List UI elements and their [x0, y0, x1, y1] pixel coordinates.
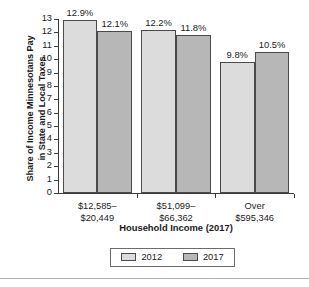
y-tick [54, 99, 58, 100]
y-tick-label: 2 [47, 162, 52, 171]
legend-item-2017: 2017 [183, 253, 224, 262]
bar-value-label: 12.2% [145, 18, 172, 27]
y-tick [54, 113, 58, 114]
y-tick-label: 0 [47, 188, 52, 197]
y-tick [54, 19, 58, 20]
y-tick [54, 166, 58, 167]
y-tick [54, 139, 58, 140]
x-tick [294, 194, 295, 198]
bar [220, 62, 255, 193]
bar-value-label: 12.9% [67, 8, 94, 17]
legend-swatch-2017 [183, 253, 198, 261]
y-tick-label: 1 [47, 175, 52, 184]
y-tick-label: 10 [42, 54, 52, 63]
y-tick [54, 180, 58, 181]
y-tick-label: 4 [47, 135, 52, 144]
legend-label-2017: 2017 [203, 253, 224, 262]
legend-swatch-2012 [121, 253, 136, 261]
chart-legend: 2012 2017 [110, 248, 235, 267]
y-tick-label: 7 [47, 95, 52, 104]
bottom-divider [0, 278, 309, 279]
y-tick-label: 13 [42, 14, 52, 23]
legend-item-2012: 2012 [121, 253, 162, 262]
y-tick [54, 32, 58, 33]
y-tick [54, 153, 58, 154]
y-tick-label: 8 [47, 81, 52, 90]
y-tick [54, 86, 58, 87]
y-axis-line [58, 19, 59, 194]
y-tick [54, 46, 58, 47]
y-tick [54, 126, 58, 127]
bar [255, 52, 290, 193]
x-tick [215, 194, 216, 198]
x-tick [137, 194, 138, 198]
bar-value-label: 10.5% [259, 40, 286, 49]
y-tick-label: 11 [42, 41, 52, 50]
y-tick [54, 59, 58, 60]
bar-value-label: 9.8% [227, 50, 248, 59]
y-tick [54, 193, 58, 194]
x-category-label: Over $595,346 [235, 201, 274, 224]
bar [97, 31, 132, 193]
plot-area: 012345678910111213 12.9%12.1%12.2%11.8%9… [58, 19, 294, 193]
x-axis-title: Household Income (2017) [58, 222, 294, 233]
y-tick-label: 5 [47, 121, 52, 130]
bar [63, 20, 98, 193]
legend-label-2012: 2012 [141, 253, 162, 262]
bar-value-label: 11.8% [180, 23, 206, 32]
y-tick-label: 3 [47, 148, 52, 157]
y-tick [54, 73, 58, 74]
bar [176, 35, 211, 193]
x-category-label: $51,099– $66,362 [157, 201, 196, 224]
y-tick-label: 6 [47, 108, 52, 117]
y-tick-label: 9 [47, 68, 52, 77]
bar [141, 30, 176, 193]
x-axis-line [58, 193, 294, 194]
x-category-label: $12,585– $20,449 [78, 201, 117, 224]
bar-chart: Share of Income Minnesotans Pay in State… [0, 0, 309, 287]
y-tick-label: 12 [42, 28, 52, 37]
bar-value-label: 12.1% [101, 19, 128, 28]
